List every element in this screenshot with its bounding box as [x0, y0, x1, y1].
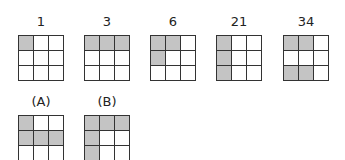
shaded-cell: [115, 116, 130, 131]
shaded-cell: [299, 36, 314, 51]
empty-cell: [85, 66, 100, 81]
shaded-cell: [19, 36, 34, 51]
empty-cell: [181, 36, 196, 51]
empty-cell: [49, 66, 64, 81]
pattern-grid: [283, 35, 329, 81]
shaded-cell: [284, 36, 299, 51]
empty-cell: [49, 51, 64, 66]
empty-cell: [284, 51, 299, 66]
empty-cell: [100, 66, 115, 81]
empty-cell: [181, 66, 196, 81]
shaded-cell: [100, 116, 115, 131]
shaded-cell: [34, 131, 49, 146]
shaded-cell: [19, 131, 34, 146]
shaded-cell: [299, 66, 314, 81]
pattern-grid: [18, 115, 64, 160]
shaded-cell: [217, 36, 232, 51]
shaded-cell: [151, 36, 166, 51]
shaded-cell: [85, 116, 100, 131]
empty-cell: [166, 66, 181, 81]
empty-cell: [115, 131, 130, 146]
shaded-cell: [85, 36, 100, 51]
empty-cell: [115, 51, 130, 66]
empty-cell: [49, 146, 64, 160]
empty-cell: [34, 116, 49, 131]
empty-cell: [247, 36, 262, 51]
empty-cell: [314, 51, 329, 66]
pattern-grid: [18, 35, 64, 81]
shaded-cell: [217, 51, 232, 66]
empty-cell: [100, 146, 115, 160]
shaded-cell: [49, 131, 64, 146]
empty-cell: [247, 51, 262, 66]
pattern-label: 6: [150, 15, 196, 29]
empty-cell: [34, 66, 49, 81]
shaded-cell: [85, 131, 100, 146]
empty-cell: [100, 51, 115, 66]
empty-cell: [85, 51, 100, 66]
pattern-label: 21: [216, 15, 262, 29]
empty-cell: [115, 146, 130, 160]
empty-cell: [115, 66, 130, 81]
empty-cell: [232, 51, 247, 66]
shaded-cell: [217, 66, 232, 81]
pattern-grid: [216, 35, 262, 81]
shaded-cell: [100, 36, 115, 51]
shaded-cell: [151, 51, 166, 66]
empty-cell: [166, 51, 181, 66]
empty-cell: [19, 146, 34, 160]
empty-cell: [232, 36, 247, 51]
empty-cell: [49, 116, 64, 131]
empty-cell: [34, 146, 49, 160]
empty-cell: [19, 51, 34, 66]
shaded-cell: [284, 66, 299, 81]
empty-cell: [232, 66, 247, 81]
empty-cell: [314, 36, 329, 51]
empty-cell: [151, 66, 166, 81]
empty-cell: [247, 66, 262, 81]
pattern-grid: [84, 35, 130, 81]
empty-cell: [299, 51, 314, 66]
empty-cell: [34, 36, 49, 51]
pattern-label: 34: [283, 15, 329, 29]
pattern-grid: [150, 35, 196, 81]
empty-cell: [100, 131, 115, 146]
empty-cell: [181, 51, 196, 66]
pattern-label: 3: [84, 15, 130, 29]
pattern-label: (A): [18, 95, 64, 109]
empty-cell: [34, 51, 49, 66]
shaded-cell: [19, 116, 34, 131]
pattern-label: 1: [18, 15, 64, 29]
shaded-cell: [85, 146, 100, 160]
shaded-cell: [115, 36, 130, 51]
empty-cell: [19, 66, 34, 81]
empty-cell: [314, 66, 329, 81]
pattern-grid: [84, 115, 130, 160]
pattern-label: (B): [84, 95, 130, 109]
empty-cell: [49, 36, 64, 51]
shaded-cell: [166, 36, 181, 51]
